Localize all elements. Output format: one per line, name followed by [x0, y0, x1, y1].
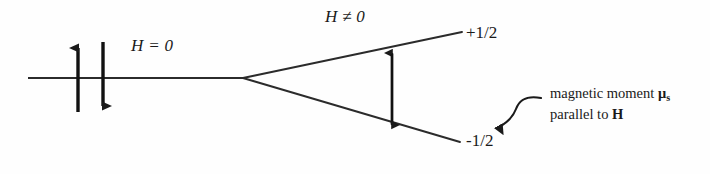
note-line-2: parallel to H [550, 105, 670, 123]
mu-symbol: μ [658, 85, 666, 101]
note-line-1: magnetic moment μs [550, 84, 670, 105]
lower-split-level-line [243, 78, 460, 142]
curved-pointer-arrow [499, 97, 541, 127]
label-field-on: H ≠ 0 [325, 7, 365, 27]
h-vector-symbol: H [612, 106, 623, 122]
zeeman-splitting-figure: H = 0 H ≠ 0 +1/2 -1/2 magnetic moment μs… [0, 0, 710, 174]
upper-split-level-line [243, 32, 462, 78]
label-field-off: H = 0 [131, 36, 173, 56]
note-line-1-text: magnetic moment [550, 85, 658, 101]
label-upper-level: +1/2 [466, 23, 497, 43]
note-line-2-text: parallel to [550, 106, 612, 122]
label-lower-level: -1/2 [466, 131, 493, 151]
mu-subscript: s [666, 92, 670, 103]
magnetic-moment-note: magnetic moment μs parallel to H [550, 84, 670, 123]
